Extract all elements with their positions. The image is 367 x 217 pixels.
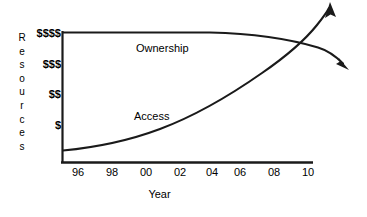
x-tick-label: 06 [227, 166, 253, 178]
chart-plot-area [0, 0, 367, 217]
x-tick-label: 98 [99, 166, 125, 178]
x-tick-label: 08 [261, 166, 287, 178]
chart-figure: R e s o u r c e s $$$$ $$$ $$ $ 96 98 00… [0, 0, 367, 217]
y-axis-title-letter: c [14, 113, 30, 127]
y-axis-title-letter: s [14, 140, 30, 154]
y-axis-title-letter: R [14, 31, 30, 45]
y-axis-title-letter: e [14, 126, 30, 140]
series-line-access [63, 8, 329, 151]
access-arrowhead-icon [325, 2, 336, 18]
x-axis-title-text: Year [148, 188, 170, 200]
y-axis-title-letter: s [14, 58, 30, 72]
y-axis-title-letter: o [14, 72, 30, 86]
series-label-ownership: Ownership [136, 42, 189, 54]
y-axis-title: R e s o u r c e s [14, 31, 30, 153]
x-tick-label: 00 [133, 166, 159, 178]
x-tick-label: 04 [199, 166, 225, 178]
y-axis-title-letter: r [14, 99, 30, 113]
series-label-access: Access [134, 110, 169, 122]
series-line-ownership [63, 33, 343, 64]
y-axis-title-letter: u [14, 85, 30, 99]
x-tick-label: 96 [65, 166, 91, 178]
x-axis-title: Year [0, 188, 367, 200]
x-tick-label: 02 [167, 166, 193, 178]
y-axis-title-letter: e [14, 45, 30, 59]
x-tick-label: 10 [295, 166, 321, 178]
